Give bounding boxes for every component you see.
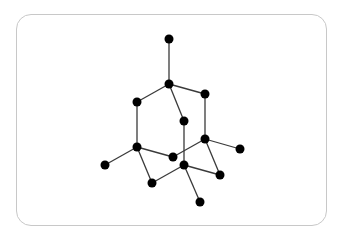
- bond-n11-n13: [184, 165, 220, 175]
- atom-node-n6: [133, 143, 142, 152]
- atom-node-n12: [148, 179, 157, 188]
- molecule-diagram: [0, 0, 338, 237]
- bond-n2-n4: [169, 84, 205, 94]
- bond-n11-n12: [152, 165, 184, 183]
- atom-node-n13: [216, 171, 225, 180]
- atom-node-n8: [101, 161, 110, 170]
- bond-n7-n13: [205, 139, 220, 175]
- atom-node-n5: [180, 117, 189, 126]
- bond-n2-n5: [169, 84, 184, 121]
- bond-n11-n14: [184, 165, 200, 202]
- atom-node-n11: [180, 161, 189, 170]
- atom-node-n9: [169, 153, 178, 162]
- bond-n2-n3: [137, 84, 169, 102]
- bond-n7-n10: [205, 139, 240, 149]
- atom-node-n14: [196, 198, 205, 207]
- atom-nodes: [101, 35, 245, 207]
- atom-node-n1: [165, 35, 174, 44]
- bond-n9-n7: [173, 139, 205, 157]
- bond-n6-n9: [137, 147, 173, 157]
- bond-n6-n8: [105, 147, 137, 165]
- atom-node-n2: [165, 80, 174, 89]
- atom-node-n10: [236, 145, 245, 154]
- bond-n6-n12: [137, 147, 152, 183]
- atom-node-n4: [201, 90, 210, 99]
- atom-node-n3: [133, 98, 142, 107]
- atom-node-n7: [201, 135, 210, 144]
